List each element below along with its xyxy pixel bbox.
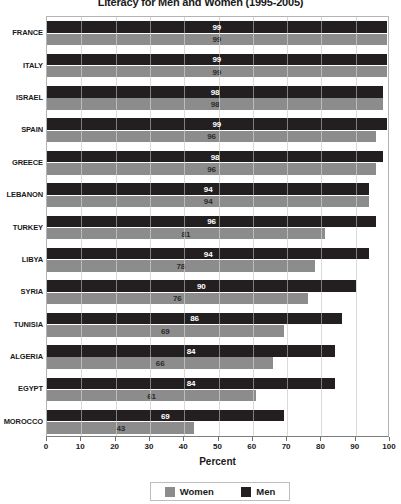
bar-value-label: 81 <box>182 229 191 238</box>
x-tick-label: 50 <box>213 442 222 451</box>
legend-item-women: Women <box>165 486 214 497</box>
bar-group-men: 86 <box>47 313 388 324</box>
bar-group-women: 81 <box>47 228 388 239</box>
bar-group-men: 98 <box>47 151 388 162</box>
x-tick <box>355 437 356 441</box>
bar-value-label: 96 <box>207 164 216 173</box>
chart-title: Literacy for Men and Women (1995-2005) <box>0 0 401 8</box>
x-axis: 0102030405060708090100 <box>46 437 389 457</box>
category-label-syria: SYRIA <box>0 287 43 296</box>
x-tick <box>80 437 81 441</box>
x-tick-label: 80 <box>316 442 325 451</box>
bar-group-men: 98 <box>47 86 388 97</box>
bar-value-label: 43 <box>116 423 125 432</box>
x-tick-label: 70 <box>282 442 291 451</box>
bar-group-men: 99 <box>47 118 388 129</box>
x-tick <box>320 437 321 441</box>
bar-group-men: 96 <box>47 216 388 227</box>
bar-group-women: 99 <box>47 66 388 77</box>
bar-rows: 9999999998989996989694949681947890768669… <box>47 17 388 436</box>
category-label-egypt: EGYPT <box>0 384 43 393</box>
x-tick <box>389 437 390 441</box>
x-tick-label: 30 <box>144 442 153 451</box>
chart-legend: Women Men <box>150 482 290 501</box>
bar-group-men: 84 <box>47 345 388 356</box>
x-tick-label: 0 <box>44 442 48 451</box>
bar-group-women: 66 <box>47 357 388 368</box>
bar-value-label: 61 <box>147 391 156 400</box>
legend-label-men: Men <box>256 486 275 497</box>
bar-group-women: 99 <box>47 34 388 45</box>
bar-group-women: 76 <box>47 293 388 304</box>
bar-value-label: 94 <box>204 184 213 193</box>
bar-value-label: 90 <box>197 282 206 291</box>
bar-value-label: 98 <box>211 152 220 161</box>
bar-value-label: 86 <box>190 314 199 323</box>
bar-value-label: 76 <box>173 294 182 303</box>
bar-group-men: 99 <box>47 21 388 32</box>
category-label-france: FRANCE <box>0 28 43 37</box>
bar-group-women: 69 <box>47 325 388 336</box>
x-tick <box>149 437 150 441</box>
x-tick <box>252 437 253 441</box>
legend-swatch-women-icon <box>165 487 175 497</box>
bar-value-label: 94 <box>204 249 213 258</box>
category-label-lebanon: LEBANON <box>0 190 43 199</box>
category-label-algeria: ALGERIA <box>0 352 43 361</box>
bar-group-men: 84 <box>47 378 388 389</box>
bar-value-label: 99 <box>212 120 221 129</box>
x-tick <box>218 437 219 441</box>
bar-value-label: 99 <box>212 23 221 32</box>
bar-group-women: 96 <box>47 163 388 174</box>
legend-label-women: Women <box>180 486 214 497</box>
bar-value-label: 99 <box>212 55 221 64</box>
bar-value-label: 96 <box>207 132 216 141</box>
bar-value-label: 69 <box>161 411 170 420</box>
bar-value-label: 96 <box>207 217 216 226</box>
legend-swatch-men-icon <box>241 487 251 497</box>
bar-value-label: 66 <box>156 359 165 368</box>
bar-value-label: 98 <box>211 100 220 109</box>
x-tick <box>115 437 116 441</box>
bar-group-women: 96 <box>47 131 388 142</box>
bar-value-label: 84 <box>187 346 196 355</box>
category-label-libya: LIBYA <box>0 254 43 263</box>
bar-group-women: 78 <box>47 260 388 271</box>
bar-value-label: 69 <box>161 326 170 335</box>
x-tick-label: 60 <box>247 442 256 451</box>
bar-group-men: 94 <box>47 183 388 194</box>
bar-value-label: 78 <box>176 262 185 271</box>
category-label-israel: ISRAEL <box>0 92 43 101</box>
bar-group-women: 61 <box>47 390 388 401</box>
bar-value-label: 98 <box>211 87 220 96</box>
x-tick-label: 40 <box>179 442 188 451</box>
bar-group-women: 94 <box>47 196 388 207</box>
bar-value-label: 84 <box>187 379 196 388</box>
plot-area: 9999999998989996989694949681947890768669… <box>46 16 389 437</box>
category-axis-labels: FRANCEITALYISRAELSPAINGREECELEBANONTURKE… <box>0 16 43 437</box>
bar-value-label: 99 <box>212 35 221 44</box>
bar-value-label: 99 <box>212 67 221 76</box>
legend-item-men: Men <box>241 486 275 497</box>
category-label-spain: SPAIN <box>0 125 43 134</box>
bar-group-men: 99 <box>47 54 388 65</box>
bar-group-women: 98 <box>47 98 388 109</box>
category-label-italy: ITALY <box>0 60 43 69</box>
x-tick <box>286 437 287 441</box>
chart-figure: Literacy for Men and Women (1995-2005) F… <box>0 0 401 504</box>
category-label-greece: GREECE <box>0 157 43 166</box>
category-label-morocco: MOROCCO <box>0 416 43 425</box>
x-tick-label: 10 <box>76 442 85 451</box>
bar-value-label: 94 <box>204 197 213 206</box>
bar-group-men: 69 <box>47 410 388 421</box>
bar-group-men: 90 <box>47 280 388 291</box>
x-tick-label: 100 <box>382 442 395 451</box>
x-tick <box>183 437 184 441</box>
bar-group-women: 43 <box>47 422 388 433</box>
x-tick-label: 90 <box>350 442 359 451</box>
x-tick <box>46 437 47 441</box>
x-tick-label: 20 <box>110 442 119 451</box>
category-label-turkey: TURKEY <box>0 222 43 231</box>
category-label-tunisia: TUNISIA <box>0 319 43 328</box>
x-axis-title: Percent <box>46 456 389 467</box>
